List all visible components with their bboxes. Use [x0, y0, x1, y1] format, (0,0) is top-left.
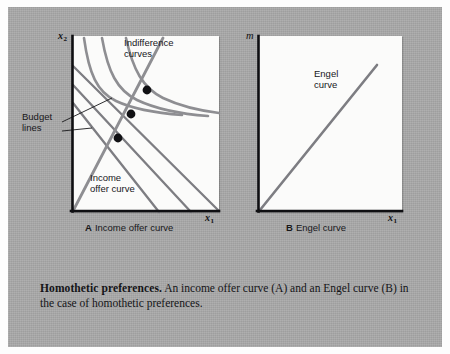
panel-a-y-axis-label: x2 — [58, 30, 67, 43]
panel-b-graph — [257, 36, 402, 212]
tangency-point-2 — [127, 110, 136, 119]
tangency-point-3 — [143, 86, 152, 95]
caption-lead: Homothetic preferences. — [40, 282, 162, 294]
indifference-curves-label: Indifference curves — [124, 37, 173, 59]
panel-a-caption-letter: A — [85, 222, 95, 233]
budget-lines-label: Budget lines — [22, 111, 52, 133]
panel-a-graph — [62, 36, 219, 212]
budget-leader-lower — [62, 128, 92, 131]
panel-b-caption-text: Engel curve — [296, 222, 346, 233]
figure-page: x2 x1 Indifference curves Budget lines I… — [0, 0, 450, 354]
figure-caption: Homothetic preferences. An income offer … — [40, 281, 420, 311]
panel-b-caption: BEngel curve — [286, 222, 346, 233]
panel-a-caption: AIncome offer curve — [85, 222, 173, 233]
engel-curve-label: Engel curve — [314, 68, 338, 90]
budget-lines-leaders — [62, 98, 112, 131]
panel-b-caption-letter: B — [286, 222, 296, 233]
panel-a-caption-text: Income offer curve — [95, 222, 174, 233]
panel-b-y-axis-label: m — [246, 30, 254, 41]
budget-line-1 — [73, 103, 159, 212]
panel-a-x-axis-label: x1 — [205, 212, 214, 225]
panel-b-x-axis-label: x1 — [388, 212, 397, 225]
tangency-point-1 — [114, 134, 123, 143]
income-offer-curve-label: Income offer curve — [90, 172, 135, 194]
